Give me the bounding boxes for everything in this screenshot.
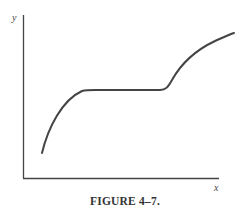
y-axis-label: y — [11, 12, 17, 23]
figure-plot: y x — [0, 0, 250, 214]
curve-line — [42, 33, 234, 153]
x-axis-label: x — [213, 182, 219, 193]
figure-caption: FIGURE 4–7. — [0, 195, 250, 207]
